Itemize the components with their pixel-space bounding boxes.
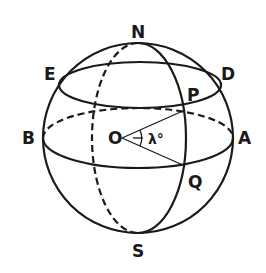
label-p: P: [187, 85, 199, 105]
label-q: Q: [188, 172, 202, 192]
label-lambda: λ°: [148, 131, 164, 147]
label-o: O: [108, 128, 122, 148]
equator-front: [43, 138, 233, 168]
label-n: N: [131, 22, 145, 42]
label-e: E: [44, 64, 56, 84]
label-a: A: [238, 128, 252, 148]
equator-back: [43, 108, 233, 138]
label-s: S: [132, 241, 144, 261]
label-b: B: [22, 128, 35, 148]
sphere-latitude-diagram: N S E D P Q B A O λ°: [0, 0, 266, 273]
label-d: D: [221, 64, 235, 84]
